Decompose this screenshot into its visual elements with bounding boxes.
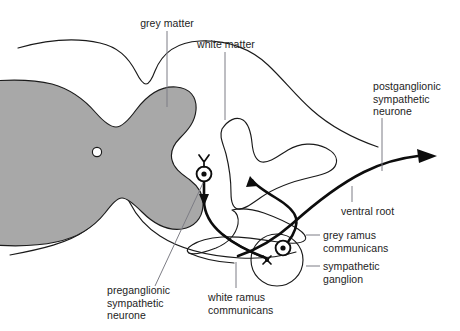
postganglionic-neurone-nucleus — [280, 245, 285, 250]
postganglionic-axon-terminal-arrowhead — [417, 149, 437, 163]
label-postganglionic-sympathetic-neurone: postganglionic sympathetic neurone — [373, 80, 459, 118]
label-preganglionic-sympathetic-neurone: preganglionic sympathetic neurone — [107, 284, 203, 322]
label-ventral-root: ventral root — [341, 205, 431, 218]
preganglionic-neurone-dendrites — [199, 155, 209, 167]
anatomical-diagram: grey matter white matter postganglionic … — [0, 0, 460, 331]
preganglionic-neurone-nucleus — [201, 171, 206, 176]
label-sympathetic-ganglion: sympathetic ganglion — [323, 260, 415, 285]
ventral-root-sheath-outline — [221, 118, 337, 209]
label-grey-matter: grey matter — [117, 17, 217, 30]
central-canal-circle — [92, 147, 101, 156]
label-white-ramus-communicans: white ramus communicans — [208, 291, 304, 316]
label-grey-ramus-communicans: grey ramus communicans — [323, 229, 415, 254]
postganglionic-axon-inner-arrowhead — [246, 176, 258, 187]
preganglionic-terminal-bouton — [265, 258, 269, 262]
preganglionic-axon — [204, 182, 266, 258]
label-white-matter: white matter — [176, 38, 276, 51]
grey-matter-butterfly — [0, 80, 203, 245]
